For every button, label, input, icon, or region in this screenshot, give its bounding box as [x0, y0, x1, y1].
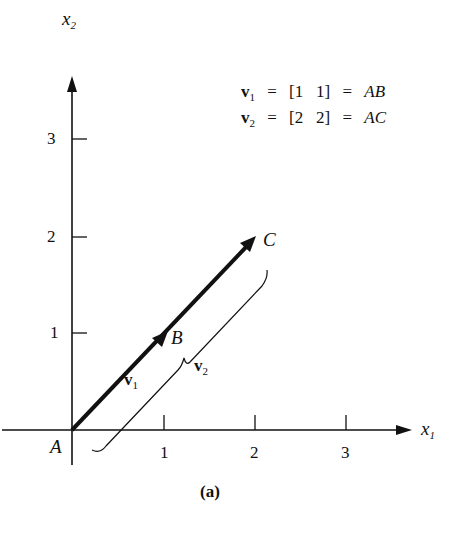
point-c-label: C [263, 229, 276, 251]
equation-v1-matrix: [1 1] [289, 82, 330, 102]
x-tick-label-1: 1 [160, 443, 169, 463]
figure-caption: (a) [200, 482, 220, 502]
y-tick-label-2: 2 [47, 227, 56, 247]
equation-v2-result: AC [364, 108, 386, 128]
y-tick-label-3: 3 [47, 129, 56, 149]
equation-v2-vec: v [241, 108, 250, 128]
point-a-label: A [50, 436, 62, 458]
diagram-canvas [0, 0, 468, 533]
vector-v1-label-text: v [124, 370, 133, 389]
x-axis-label-sub: 1 [429, 429, 435, 441]
v2-brace [92, 270, 267, 451]
equation-v1-equals-1: = [267, 82, 277, 102]
vector-v1-label-sub: 1 [133, 379, 139, 391]
x-axis-label: x1 [421, 418, 435, 441]
equation-v2-matrix: [2 2] [289, 108, 330, 128]
vector-v2-label-text: v [194, 356, 203, 375]
equation-v1-sub: 1 [250, 91, 256, 103]
y-axis-arrowhead-icon [67, 76, 77, 92]
equation-v2-equals-2: = [342, 108, 352, 128]
equation-v1: v1 = [1 1] = AB [241, 82, 385, 103]
equation-v1-equals-2: = [342, 82, 352, 102]
equation-v1-result: AB [364, 82, 385, 102]
vector-v1-label: v1 [124, 370, 138, 391]
vector-v2-label-sub: 2 [203, 365, 209, 377]
y-tick-label-1: 1 [50, 323, 59, 343]
x-tick-label-2: 2 [250, 443, 259, 463]
x-axis-arrowhead-icon [396, 425, 412, 435]
y-axis-label: x2 [62, 8, 76, 31]
equation-v2-equals-1: = [267, 108, 277, 128]
vector-v2-label: v2 [194, 356, 208, 377]
equation-v2-sub: 2 [250, 117, 256, 129]
point-b-label: B [171, 327, 183, 349]
equation-v1-vec: v [241, 82, 250, 102]
y-axis-label-sub: 2 [70, 19, 76, 31]
equation-v2: v2 = [2 2] = AC [241, 108, 386, 129]
x-tick-label-3: 3 [341, 443, 350, 463]
